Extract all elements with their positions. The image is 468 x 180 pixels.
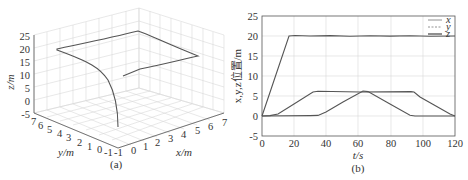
series-x bbox=[262, 91, 455, 116]
panel-a-y-label: y/m bbox=[57, 146, 74, 158]
svg-text:20: 20 bbox=[248, 31, 259, 42]
svg-text:z: z bbox=[445, 28, 450, 39]
panel-b-y-ticks: 25 20 15 10 5 0 -5 bbox=[248, 11, 259, 142]
svg-text:6: 6 bbox=[38, 120, 43, 131]
svg-text:0: 0 bbox=[131, 145, 136, 156]
svg-text:2: 2 bbox=[155, 137, 160, 148]
svg-text:5: 5 bbox=[253, 91, 258, 102]
svg-text:25: 25 bbox=[20, 31, 31, 42]
svg-text:10: 10 bbox=[20, 70, 31, 81]
svg-text:100: 100 bbox=[415, 138, 431, 149]
svg-text:-1: -1 bbox=[114, 147, 123, 158]
panel-a-trajectory bbox=[57, 31, 198, 127]
svg-text:0: 0 bbox=[253, 111, 258, 122]
svg-text:4: 4 bbox=[181, 129, 187, 140]
svg-text:5: 5 bbox=[25, 83, 30, 94]
panel-b-line-chart: x y z 25 20 15 10 5 0 -5 x,y,z位置/m 0 20 … bbox=[230, 11, 463, 175]
svg-text:80: 80 bbox=[386, 138, 397, 149]
svg-text:5: 5 bbox=[47, 124, 52, 135]
svg-text:0: 0 bbox=[259, 138, 264, 149]
svg-text:1: 1 bbox=[87, 141, 92, 152]
series-y bbox=[262, 91, 455, 116]
svg-text:6: 6 bbox=[208, 121, 213, 132]
panel-b-x-ticks: 0 20 40 60 80 100 120 bbox=[259, 138, 463, 149]
svg-text:-1: -1 bbox=[104, 147, 113, 158]
svg-text:3: 3 bbox=[66, 132, 71, 143]
svg-text:0: 0 bbox=[97, 144, 102, 155]
svg-text:25: 25 bbox=[248, 11, 259, 22]
svg-text:7: 7 bbox=[31, 116, 36, 127]
svg-text:40: 40 bbox=[321, 138, 332, 149]
panel-a-z-label: z/m bbox=[4, 74, 16, 90]
panel-b-legend: x y z bbox=[428, 14, 451, 39]
panel-a-x-ticks: -1 0 1 2 3 4 5 6 7 bbox=[114, 117, 227, 158]
svg-text:5: 5 bbox=[195, 125, 200, 136]
svg-text:15: 15 bbox=[248, 51, 259, 62]
svg-text:20: 20 bbox=[20, 44, 31, 55]
panel-a-x-label: x/m bbox=[175, 146, 192, 158]
svg-text:60: 60 bbox=[353, 138, 364, 149]
svg-text:15: 15 bbox=[20, 57, 31, 68]
panel-a-caption: (a) bbox=[110, 158, 123, 171]
svg-text:0: 0 bbox=[25, 96, 30, 107]
svg-text:4: 4 bbox=[57, 128, 63, 139]
svg-text:10: 10 bbox=[248, 71, 259, 82]
svg-text:-5: -5 bbox=[21, 109, 30, 120]
panel-a-3d-plot: 25 20 15 10 5 0 -5 z/m 7 6 5 4 3 2 1 0 -… bbox=[4, 8, 227, 171]
svg-text:20: 20 bbox=[289, 138, 300, 149]
panel-b-x-label: t/s bbox=[353, 149, 363, 161]
panel-b-grid bbox=[262, 16, 455, 136]
panel-b-caption: (b) bbox=[352, 162, 365, 175]
svg-text:120: 120 bbox=[447, 138, 463, 149]
panel-a-z-ticks: 25 20 15 10 5 0 -5 bbox=[20, 31, 31, 120]
svg-text:7: 7 bbox=[222, 117, 227, 128]
svg-text:1: 1 bbox=[143, 141, 148, 152]
svg-text:3: 3 bbox=[168, 133, 173, 144]
svg-text:2: 2 bbox=[77, 137, 82, 148]
panel-b-y-label: x,y,z位置/m bbox=[230, 48, 243, 103]
svg-text:-5: -5 bbox=[249, 131, 258, 142]
figure: 25 20 15 10 5 0 -5 z/m 7 6 5 4 3 2 1 0 -… bbox=[0, 0, 468, 180]
